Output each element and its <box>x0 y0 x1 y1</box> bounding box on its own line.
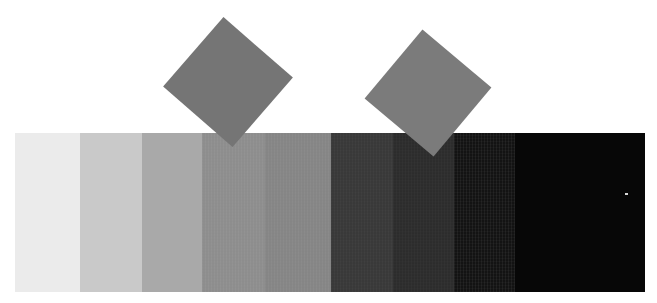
hot-pixel-speck <box>625 193 628 195</box>
wedge-patch-4 <box>202 133 265 292</box>
wedge-patch-7 <box>393 133 454 292</box>
diamond-right <box>379 44 477 142</box>
grayscale-step-wedge <box>15 133 645 292</box>
diamond-left-face <box>163 17 293 147</box>
wedge-patch-8 <box>454 133 515 292</box>
diamond-left <box>179 33 277 131</box>
wedge-patch-2 <box>80 133 142 292</box>
wedge-patch-5 <box>265 133 331 292</box>
test-chart-canvas <box>0 0 657 303</box>
wedge-patch-9 <box>515 133 645 292</box>
wedge-patch-6 <box>331 133 393 292</box>
wedge-patch-3 <box>142 133 202 292</box>
wedge-patch-1 <box>15 133 80 292</box>
